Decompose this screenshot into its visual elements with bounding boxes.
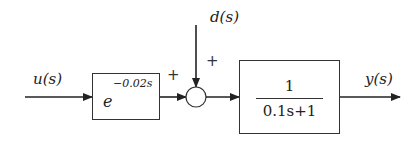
output-label: y(s) bbox=[365, 70, 393, 88]
tf-numerator: 1 bbox=[240, 77, 339, 95]
sum-sign-left: + bbox=[167, 66, 180, 84]
delay-block: e −0.02s bbox=[92, 73, 160, 120]
input-label: u(s) bbox=[33, 70, 62, 88]
delay-base: e bbox=[103, 92, 112, 111]
sum-sign-top: + bbox=[206, 52, 219, 70]
tf-denominator: 0.1s+1 bbox=[240, 102, 339, 120]
plant-transfer-block: 1 0.1s+1 bbox=[239, 60, 340, 134]
summing-junction bbox=[186, 87, 206, 107]
delay-exponent: −0.02s bbox=[113, 77, 152, 90]
disturbance-label: d(s) bbox=[210, 8, 239, 26]
tf-fraction-bar bbox=[256, 98, 323, 99]
